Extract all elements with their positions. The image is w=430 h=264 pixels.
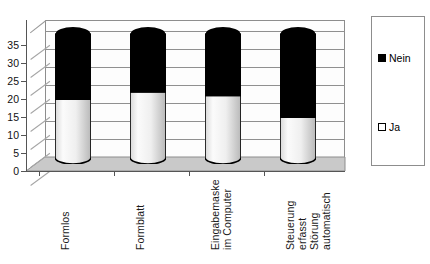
y-tick-label: 35 xyxy=(0,40,19,50)
category-label-line: Steuerung xyxy=(284,192,296,250)
category-label-line: Störung xyxy=(308,192,320,250)
x-tick xyxy=(264,171,265,176)
y-tick xyxy=(21,63,27,64)
category-label-line: Formblatt xyxy=(134,205,146,250)
bar-stack xyxy=(55,27,91,164)
bar-chart: 05101520253035 FormlosFormblattEingabema… xyxy=(0,0,430,264)
y-tick-label: 30 xyxy=(0,58,19,68)
y-tick-label: 10 xyxy=(0,130,19,140)
y-tick xyxy=(21,135,27,136)
y-tick xyxy=(21,45,27,46)
y-tick xyxy=(21,99,27,100)
y-tick-label: 15 xyxy=(0,112,19,122)
y-tick xyxy=(21,171,27,172)
chart-legend: Nein Ja xyxy=(371,16,425,166)
x-tick xyxy=(39,171,40,176)
category-label: Formblatt xyxy=(134,205,146,250)
y-axis-labels: 05101520253035 xyxy=(0,0,19,264)
category-label-line: erfasst xyxy=(296,192,308,250)
y-tick xyxy=(21,153,27,154)
bar-stack xyxy=(205,27,241,164)
legend-item-nein: Nein xyxy=(378,53,411,63)
category-label-line: Formlos xyxy=(59,211,71,250)
category-label: Eingabemaskeim Computer xyxy=(209,179,233,250)
y-tick-label: 20 xyxy=(0,94,19,104)
y-axis xyxy=(26,20,27,172)
x-tick xyxy=(189,171,190,176)
legend-label-nein: Nein xyxy=(389,53,411,63)
y-tick-label: 0 xyxy=(0,166,19,176)
legend-swatch-nein xyxy=(378,54,386,62)
x-tick xyxy=(114,171,115,176)
x-axis xyxy=(26,171,345,172)
y-tick xyxy=(21,117,27,118)
bar-stack xyxy=(280,27,316,164)
y-tick-label: 25 xyxy=(0,76,19,86)
category-label-line: Eingabemaske xyxy=(209,179,221,250)
legend-swatch-ja xyxy=(378,123,386,131)
y-tick xyxy=(21,81,27,82)
y-tick-label: 5 xyxy=(0,148,19,158)
chart-left-wall xyxy=(26,20,46,157)
category-label-line: automatisch xyxy=(320,192,332,250)
legend-label-ja: Ja xyxy=(389,122,400,132)
category-label: SteuerungerfasstStörungautomatisch xyxy=(284,192,332,250)
category-label-line: im Computer xyxy=(221,179,233,250)
legend-item-ja: Ja xyxy=(378,122,400,132)
category-label: Formlos xyxy=(59,211,71,250)
bar-stack xyxy=(130,27,166,164)
